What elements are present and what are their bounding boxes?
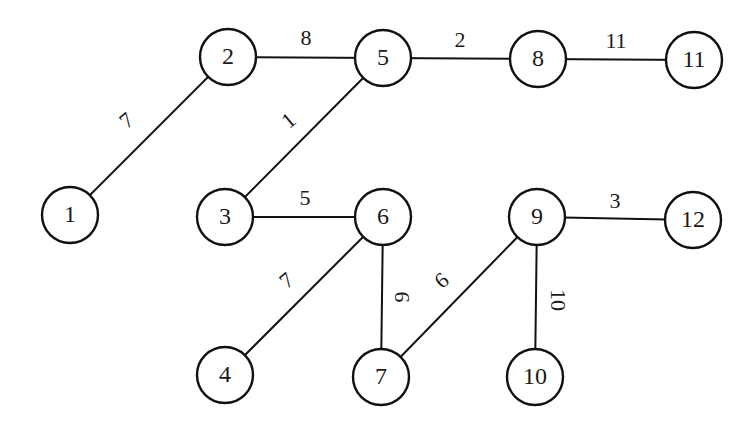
edge-1-2 — [70, 57, 228, 215]
node-label: 8 — [532, 45, 544, 71]
node-label: 10 — [523, 363, 547, 389]
node-label: 3 — [219, 203, 231, 229]
node-label: 7 — [375, 363, 387, 389]
node-label: 4 — [219, 361, 231, 387]
edge-weight-3-6: 5 — [300, 185, 311, 210]
node-1: 1 — [42, 187, 98, 243]
node-label: 9 — [531, 203, 543, 229]
edge-weight-9-12: 3 — [610, 188, 621, 213]
node-3: 3 — [197, 189, 253, 245]
node-5: 5 — [355, 30, 411, 86]
node-label: 1 — [64, 201, 76, 227]
node-12: 12 — [665, 192, 721, 248]
edge-weight-9-10: 10 — [546, 289, 571, 311]
node-label: 11 — [682, 46, 705, 72]
node-9: 9 — [509, 189, 565, 245]
nodes-layer: 123456789101112 — [42, 29, 722, 405]
node-2: 2 — [200, 29, 256, 85]
node-10: 10 — [507, 349, 563, 405]
edge-weight-8-11: 11 — [605, 28, 626, 53]
edge-4-6 — [225, 217, 383, 375]
node-8: 8 — [510, 31, 566, 87]
node-label: 5 — [377, 44, 389, 70]
edge-weight-7-9: 6 — [429, 267, 453, 293]
edge-weight-1-2: 7 — [114, 107, 138, 133]
node-11: 11 — [666, 32, 722, 88]
node-label: 12 — [681, 206, 705, 232]
edge-weight-3-5: 1 — [276, 107, 300, 133]
graph-diagram: 7821115796310 123456789101112 — [0, 0, 754, 429]
edge-weight-4-6: 7 — [274, 267, 298, 293]
node-7: 7 — [353, 349, 409, 405]
node-4: 4 — [197, 347, 253, 403]
edge-weight-2-5: 8 — [301, 25, 312, 50]
edge-weight-5-8: 2 — [455, 27, 466, 52]
node-6: 6 — [355, 189, 411, 245]
edge-weight-6-7: 9 — [389, 292, 414, 303]
node-label: 6 — [377, 203, 389, 229]
node-label: 2 — [222, 43, 234, 69]
